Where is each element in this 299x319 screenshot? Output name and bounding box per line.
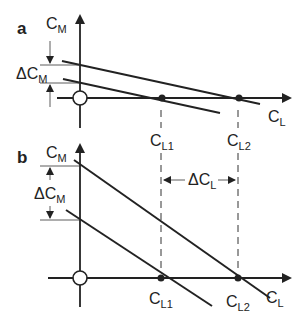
delta-cl-label: ΔCL bbox=[188, 171, 216, 191]
panel-b: b CM CL ΔCM CL1 CL2 bbox=[17, 144, 290, 313]
cm-cl-diagram: a CM CL ΔCM CL1 CL2 ΔCL b CM bbox=[0, 0, 299, 319]
panel-label-a: a bbox=[17, 19, 27, 38]
cl1-label-b: CL1 bbox=[149, 290, 173, 310]
cm-line-lower-b bbox=[66, 210, 212, 306]
point-cl2-a bbox=[236, 95, 243, 102]
cl2-label-b: CL2 bbox=[226, 293, 250, 313]
origin-circle-b bbox=[73, 271, 87, 285]
panel-label-b: b bbox=[17, 148, 27, 167]
delta-cm-label-b: ΔCM bbox=[34, 185, 65, 205]
point-cl1-a bbox=[159, 95, 166, 102]
origin-circle-a bbox=[73, 91, 87, 105]
point-cl1-b bbox=[158, 275, 165, 282]
point-cl2-b bbox=[235, 275, 242, 282]
y-axis-label-a: CM bbox=[46, 15, 67, 35]
x-axis-label-a: CL bbox=[268, 108, 286, 128]
cl2-label-a: CL2 bbox=[227, 132, 251, 152]
cl1-label-a: CL1 bbox=[150, 132, 174, 152]
panel-a: a CM CL ΔCM CL1 CL2 bbox=[16, 15, 290, 152]
delta-cm-label-a: ΔCM bbox=[16, 65, 47, 85]
y-axis-label-b: CM bbox=[46, 144, 67, 164]
x-axis-label-b: CL bbox=[266, 289, 284, 309]
